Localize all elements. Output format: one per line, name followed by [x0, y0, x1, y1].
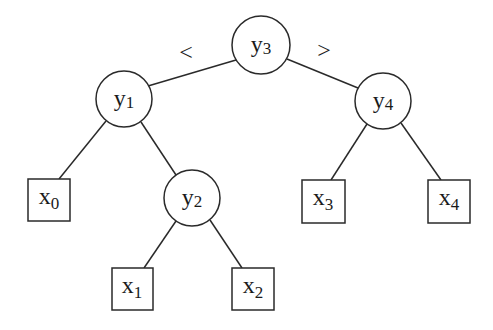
edge-y1-y2 [141, 122, 176, 175]
edge-y3-y4 [287, 59, 358, 88]
leaf-node-x4: x4 [428, 180, 470, 223]
internal-node-y4: y4 [355, 73, 411, 129]
greater-than-label: > [317, 37, 331, 63]
leaf-node-x3: x3 [302, 180, 345, 223]
bst-diagram: < > y3 y1 y4 y2 x0 x1 x2 x3 x4 [0, 0, 493, 330]
edge-y4-x3 [331, 124, 367, 180]
internal-node-y3: y3 [232, 16, 290, 74]
edge-y2-x1 [144, 221, 176, 268]
leaf-node-x2: x2 [232, 268, 274, 310]
leaf-node-x0: x0 [28, 179, 70, 221]
edge-y4-x4 [401, 123, 441, 180]
less-than-label: < [179, 39, 193, 65]
internal-node-y2: y2 [164, 170, 220, 226]
internal-node-y1: y1 [96, 71, 152, 127]
edge-y1-x0 [59, 121, 106, 179]
leaf-node-x1: x1 [112, 268, 153, 310]
edge-y2-x2 [210, 220, 242, 268]
